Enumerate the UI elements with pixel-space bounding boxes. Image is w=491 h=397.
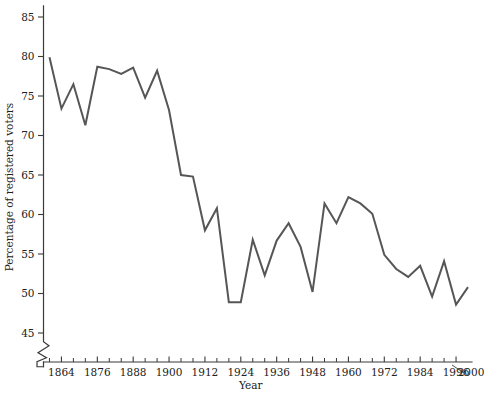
chart-figure: 455055606570758085 186418761888190019121… — [0, 0, 491, 397]
line-chart: 455055606570758085 186418761888190019121… — [0, 0, 491, 397]
x-tick-label: 1972 — [371, 366, 398, 378]
y-tick-label: 50 — [21, 287, 34, 299]
x-tick-label: 1924 — [227, 366, 254, 378]
x-tick-label: 1876 — [84, 366, 111, 378]
y-tick-label: 45 — [21, 327, 34, 339]
y-tick-label: 70 — [21, 129, 34, 141]
y-tick-label: 75 — [21, 90, 34, 102]
x-tick-label: 1960 — [335, 366, 362, 378]
x-tick-label: 1864 — [48, 366, 75, 378]
y-tick-label: 80 — [21, 50, 34, 62]
x-tick-label-2000: 2000 — [458, 366, 485, 378]
x-tick-label: 1912 — [192, 366, 219, 378]
data-series — [49, 57, 468, 304]
y-axis-title: Percentage of registered voters — [3, 103, 15, 272]
x-tick-label: 1888 — [120, 366, 147, 378]
y-tick-label: 60 — [21, 208, 34, 220]
x-tick-label: 1936 — [263, 366, 290, 378]
x-axis: 1864187618881900191219241936194819601972… — [44, 357, 485, 378]
x-tick-label: 1900 — [156, 366, 183, 378]
y-tick-label: 85 — [21, 11, 34, 23]
y-axis: 455055606570758085 — [21, 6, 43, 339]
axis-labels: YearPercentage of registered voters — [3, 103, 264, 391]
y-tick-label: 65 — [21, 169, 34, 181]
y-tick-label: 55 — [21, 248, 34, 260]
data-line-0 — [49, 57, 468, 304]
x-tick-label: 1948 — [299, 366, 326, 378]
x-tick-label: 1984 — [407, 366, 434, 378]
x-axis-title: Year — [238, 379, 263, 391]
